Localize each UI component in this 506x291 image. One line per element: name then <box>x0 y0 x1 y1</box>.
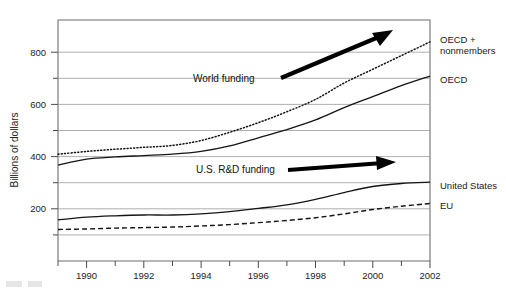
y-axis-tick-labels: 200 400 600 800 <box>30 47 46 215</box>
ytick-label-800: 800 <box>30 47 46 58</box>
x-axis-ticks <box>58 261 430 268</box>
world-funding-arrow-head <box>372 30 393 46</box>
cropped-caption-remnant <box>6 281 46 287</box>
series-label-united-states: United States <box>440 180 497 191</box>
us-rd-funding-annotation-text: U.S. R&D funding <box>196 164 275 175</box>
us-rd-funding-arrow-head <box>376 156 396 170</box>
xtick-label-2002: 2002 <box>419 270 440 281</box>
ytick-label-400: 400 <box>30 151 46 162</box>
us-rd-funding-arrow-shaft <box>288 163 383 170</box>
series-line-oecd-plus-nonmembers <box>58 42 430 154</box>
series-label-oecd-plus-nonmembers-line2: nonmembers <box>440 45 496 56</box>
xtick-label-1990: 1990 <box>76 270 97 281</box>
xtick-label-1996: 1996 <box>248 270 269 281</box>
xtick-label-1992: 1992 <box>133 270 154 281</box>
y-axis-ticks <box>51 52 58 235</box>
xtick-label-1998: 1998 <box>305 270 326 281</box>
ytick-label-600: 600 <box>30 99 46 110</box>
y-axis-title: Billions of dollars <box>9 112 20 187</box>
xtick-label-2000: 2000 <box>362 270 383 281</box>
plot-frame <box>58 20 430 261</box>
data-series-group <box>58 42 430 230</box>
axes-box <box>58 20 430 261</box>
xtick-label-1994: 1994 <box>191 270 212 281</box>
world-funding-annotation-text: World funding <box>193 73 255 84</box>
ytick-label-200: 200 <box>30 203 46 214</box>
line-chart: 200 400 600 800 Billions of dollars <box>0 0 506 291</box>
figure-container: 200 400 600 800 Billions of dollars <box>0 0 506 291</box>
series-label-eu: EU <box>440 200 453 211</box>
series-label-oecd: OECD <box>440 74 468 85</box>
series-line-united-states <box>58 182 430 220</box>
series-line-oecd <box>58 76 430 165</box>
x-axis-tick-labels: 1990 1992 1994 1996 1998 2000 2002 <box>76 270 441 281</box>
world-funding-annotation: World funding <box>193 30 393 84</box>
series-labels-group: OECD + nonmembers OECD United States EU <box>440 34 497 211</box>
us-rd-funding-annotation: U.S. R&D funding <box>196 156 396 175</box>
series-label-oecd-plus-nonmembers-line1: OECD + <box>440 34 476 45</box>
y-axis-title-text: Billions of dollars <box>9 112 20 187</box>
